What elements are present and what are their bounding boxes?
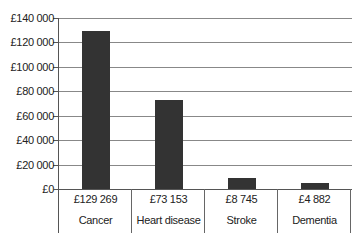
value-label: £4 882 <box>278 193 351 205</box>
y-tick-label: £60 000 <box>16 110 54 122</box>
y-tick-label: £80 000 <box>16 85 54 97</box>
bar-dementia <box>301 183 329 189</box>
category-label: Dementia <box>278 214 351 226</box>
value-label: £129 269 <box>59 193 132 205</box>
table-divider <box>350 189 351 233</box>
value-label: £8 745 <box>205 193 278 205</box>
value-label: £73 153 <box>132 193 205 205</box>
y-tick-label: £140 000 <box>11 12 54 24</box>
bar-stroke <box>228 178 256 189</box>
y-tick-label: £20 000 <box>16 159 54 171</box>
y-tick-label: £40 000 <box>16 134 54 146</box>
y-tick-label: £120 000 <box>11 36 54 48</box>
bar-chart: £0£20 000£40 000£60 000£80 000£100 000£1… <box>0 0 364 240</box>
y-tick-label: £100 000 <box>11 61 54 73</box>
bar-heart-disease <box>155 100 183 189</box>
gridline <box>58 18 352 19</box>
category-label: Stroke <box>205 214 278 226</box>
x-axis-baseline <box>53 189 352 190</box>
category-label: Heart disease <box>132 214 205 226</box>
category-label: Cancer <box>59 214 132 226</box>
bar-cancer <box>82 31 110 189</box>
